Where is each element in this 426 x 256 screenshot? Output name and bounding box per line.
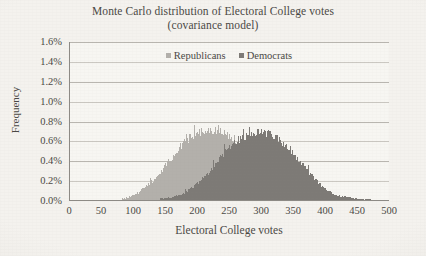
legend-entry-republicans: Republicans (166, 50, 226, 61)
y-axis-tick-label: 0.2% (40, 176, 62, 187)
y-axis-tick-label: 0.6% (40, 136, 62, 147)
chart-legend: RepublicansDemocrats (69, 50, 389, 61)
x-axis-tick-label: 450 (349, 205, 365, 216)
gridline (70, 82, 389, 83)
x-axis-tick-label: 500 (381, 205, 397, 216)
plot-area (69, 42, 389, 201)
x-axis-tick-label: 300 (253, 205, 269, 216)
y-axis-tick-label: 1.2% (40, 77, 62, 88)
x-axis-tick-label: 150 (157, 205, 173, 216)
gridline (70, 102, 389, 103)
y-axis-tick-label: 0.8% (40, 117, 62, 128)
y-axis-tick-label: 1.4% (40, 57, 62, 68)
legend-swatch-icon (166, 53, 171, 58)
y-axis-tick-label: 1.6% (40, 37, 62, 48)
x-axis-tick-label: 200 (189, 205, 205, 216)
chart-figure: Monte Carlo distribution of Electoral Co… (0, 0, 426, 256)
y-axis-title: Frequency (9, 64, 21, 156)
legend-swatch-icon (239, 53, 244, 58)
x-axis-tick-label: 400 (317, 205, 333, 216)
x-axis-tick-label: 0 (66, 205, 71, 216)
legend-entry-democrats: Democrats (239, 50, 292, 61)
plot-inner (70, 42, 389, 200)
x-axis-tick-label: 350 (285, 205, 301, 216)
legend-label: Republicans (174, 50, 226, 61)
gridline (70, 42, 389, 43)
x-axis-tick-label: 100 (125, 205, 141, 216)
x-axis-tick-labels: 050100150200250300350400450500 (0, 205, 426, 219)
x-axis-title: Electoral College votes (69, 224, 389, 236)
y-axis-tick-label: 1.0% (40, 97, 62, 108)
y-axis-tick-label: 0.4% (40, 156, 62, 167)
gridline (70, 62, 389, 63)
histogram-bar (370, 199, 371, 200)
gridline (70, 122, 389, 123)
x-axis-tick-label: 50 (96, 205, 107, 216)
x-axis-tick-label: 250 (221, 205, 237, 216)
legend-label: Democrats (247, 50, 292, 61)
